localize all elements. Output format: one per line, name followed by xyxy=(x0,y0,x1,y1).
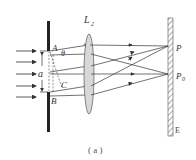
angle-label: θ xyxy=(61,49,65,58)
lens-label: L xyxy=(83,14,90,25)
point-a-label: A xyxy=(51,43,58,53)
focused-rays xyxy=(90,45,168,95)
slit-width-label: a xyxy=(38,68,43,79)
figure-caption: ( a ) xyxy=(88,145,103,155)
incident-rays xyxy=(16,51,36,97)
screen-label: E xyxy=(175,126,180,135)
screen-center-p0-label: P xyxy=(175,71,182,81)
screen-point-p-label: P xyxy=(175,43,182,53)
point-b-label: B xyxy=(51,96,57,106)
single-slit-diffraction-diagram: L 2 A θ a C B P P 0 E ( a ) xyxy=(0,0,196,160)
point-c-label: C xyxy=(61,80,68,90)
lens-label-sub: 2 xyxy=(91,21,94,27)
screen xyxy=(168,18,173,136)
slit-barrier xyxy=(47,21,50,132)
screen-center-sub: 0 xyxy=(182,76,185,82)
